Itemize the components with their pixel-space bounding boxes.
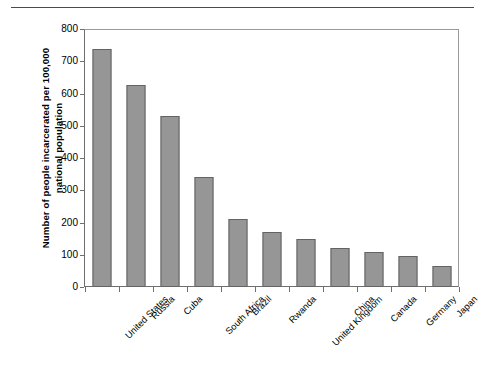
x-axis-category-label-text: Rwanda: [287, 294, 318, 325]
bar-slot: [119, 29, 153, 287]
bar-chart-figure: Number of people incarcerated per 100,00…: [0, 0, 483, 368]
x-axis-tick-mark: [119, 287, 120, 292]
bar: [195, 177, 214, 287]
bar-series: [85, 29, 459, 287]
x-axis-category-label-text: Canada: [389, 294, 419, 324]
x-axis-tick-mark: [391, 287, 392, 292]
bar-slot: [255, 29, 289, 287]
x-axis-tick-mark: [459, 287, 460, 292]
bar: [365, 252, 384, 287]
bar-slot: [85, 29, 119, 287]
bar: [331, 248, 350, 287]
y-axis-tick-mark: [80, 287, 84, 288]
x-axis-tick-mark: [357, 287, 358, 292]
bar-slot: [289, 29, 323, 287]
bar-slot: [425, 29, 459, 287]
bar: [297, 239, 316, 287]
x-axis-category-label-text: Cuba: [182, 294, 205, 317]
x-axis-tick-mark: [289, 287, 290, 292]
x-axis-category-label: Rwanda: [287, 294, 318, 325]
x-axis-category-label-text: Brazil: [250, 294, 274, 318]
x-axis-category-label: Germany: [424, 294, 458, 328]
x-axis-category-label-text: Japan: [454, 294, 479, 319]
x-axis-tick-mark: [153, 287, 154, 292]
x-axis-category-label-text: United Kingdom: [330, 294, 384, 348]
bar-slot: [187, 29, 221, 287]
bar: [93, 49, 112, 287]
x-axis-category-label: Canada: [389, 294, 419, 324]
x-axis-category-label: Cuba: [182, 294, 205, 317]
x-axis-tick-mark: [187, 287, 188, 292]
x-axis-tick-mark: [85, 287, 86, 292]
x-axis-category-label: Japan: [454, 294, 479, 319]
bar: [433, 266, 452, 287]
x-axis-category-label: Brazil: [250, 294, 274, 318]
y-axis-title-line-1: Number of people incarcerated per 100,00…: [39, 48, 52, 248]
top-horizontal-rule: [11, 7, 474, 8]
bar-slot: [323, 29, 357, 287]
bar-slot: [357, 29, 391, 287]
bar: [263, 232, 282, 287]
bar-slot: [391, 29, 425, 287]
bar-slot: [153, 29, 187, 287]
bar: [161, 116, 180, 287]
x-axis-tick-mark: [255, 287, 256, 292]
bar-slot: [221, 29, 255, 287]
bar: [127, 85, 146, 287]
x-axis-category-label-text: Germany: [424, 294, 458, 328]
x-axis-tick-mark: [323, 287, 324, 292]
x-axis-tick-mark: [425, 287, 426, 292]
x-axis-tick-mark: [221, 287, 222, 292]
bar: [229, 219, 248, 287]
x-axis-category-label: United Kingdom: [330, 294, 384, 348]
y-axis-title-line-2: national population: [52, 103, 65, 193]
bar: [399, 256, 418, 287]
